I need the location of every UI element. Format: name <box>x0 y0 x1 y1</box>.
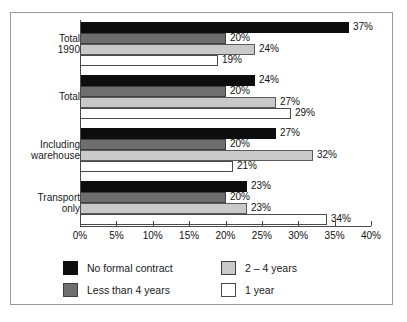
bar-value-label: 24% <box>259 43 279 55</box>
bar-value-label: 23% <box>251 180 271 192</box>
x-axis-tick <box>298 221 299 226</box>
bar-value-label: 29% <box>295 107 315 119</box>
x-axis-tick-label: 15% <box>172 230 206 242</box>
bar-value-label: 20% <box>230 85 250 97</box>
bar-3-2[interactable] <box>80 161 233 172</box>
x-axis-tick-label: 20% <box>209 230 243 242</box>
bar-value-label: 20% <box>230 32 250 44</box>
bar-value-label: 24% <box>259 74 279 86</box>
x-axis-tick-label: 40% <box>354 230 388 242</box>
category-label: Including warehouse <box>18 139 80 162</box>
legend-label: No formal contract <box>87 262 173 274</box>
x-axis-tick <box>262 221 263 226</box>
bar-3-0[interactable] <box>80 55 218 66</box>
chart-figure: Total 1990TotalIncluding warehouseTransp… <box>10 12 393 305</box>
bar-value-label: 23% <box>251 202 271 214</box>
legend-item[interactable]: No formal contract <box>63 261 173 275</box>
bar-row: 21% <box>80 161 391 172</box>
x-axis-tick-label: 5% <box>99 230 133 242</box>
bar-value-label: 27% <box>280 127 300 139</box>
category-label: Total 1990 <box>18 33 80 56</box>
x-axis-tick-label: 35% <box>318 230 352 242</box>
bar-row: 34% <box>80 214 391 225</box>
bar-row: 20% <box>80 33 391 44</box>
bar-2-1[interactable] <box>80 97 276 108</box>
legend-label: Less than 4 years <box>87 284 170 296</box>
bar-value-label: 37% <box>353 21 373 33</box>
legend-swatch <box>221 261 236 275</box>
bar-2-2[interactable] <box>80 150 313 161</box>
bar-2-3[interactable] <box>80 203 247 214</box>
bar-0-3[interactable] <box>80 181 247 192</box>
y-axis-spine <box>80 20 81 226</box>
bar-row: 32% <box>80 150 391 161</box>
bar-row: 20% <box>80 192 391 203</box>
bar-0-1[interactable] <box>80 75 255 86</box>
x-axis-tick-label: 30% <box>281 230 315 242</box>
x-axis-line <box>80 226 371 227</box>
x-axis-tick <box>371 221 372 226</box>
bar-row: 20% <box>80 86 391 97</box>
bar-1-3[interactable] <box>80 192 226 203</box>
x-axis-tick-label: 0% <box>63 230 97 242</box>
x-axis-tick <box>80 221 81 226</box>
chart-legend: No formal contract2 – 4 yearsLess than 4… <box>63 261 373 303</box>
legend-swatch <box>63 261 78 275</box>
bar-value-label: 21% <box>237 160 257 172</box>
bar-value-label: 20% <box>230 191 250 203</box>
legend-label: 1 year <box>245 284 274 296</box>
legend-item[interactable]: 2 – 4 years <box>221 261 297 275</box>
bar-row: 29% <box>80 108 391 119</box>
bar-value-label: 19% <box>222 54 242 66</box>
bar-1-1[interactable] <box>80 86 226 97</box>
x-axis-tick <box>226 221 227 226</box>
bar-row: 19% <box>80 55 391 66</box>
bar-1-2[interactable] <box>80 139 226 150</box>
bar-value-label: 32% <box>317 149 337 161</box>
bar-1-0[interactable] <box>80 33 226 44</box>
x-axis-tick <box>189 221 190 226</box>
x-axis-tick <box>116 221 117 226</box>
bar-row: 20% <box>80 139 391 150</box>
category-label: Total <box>18 91 80 103</box>
legend-item[interactable]: 1 year <box>221 283 274 297</box>
legend-swatch <box>221 283 236 297</box>
legend-swatch <box>63 283 78 297</box>
x-axis-tick <box>153 221 154 226</box>
x-axis-tick-label: 25% <box>245 230 279 242</box>
legend-item[interactable]: Less than 4 years <box>63 283 170 297</box>
x-axis-tick-label: 10% <box>136 230 170 242</box>
bar-value-label: 20% <box>230 138 250 150</box>
legend-label: 2 – 4 years <box>245 262 297 274</box>
bar-row: 27% <box>80 97 391 108</box>
bar-3-1[interactable] <box>80 108 291 119</box>
bar-0-0[interactable] <box>80 22 349 33</box>
category-label: Transport only <box>18 192 80 215</box>
x-axis-tick <box>335 221 336 226</box>
